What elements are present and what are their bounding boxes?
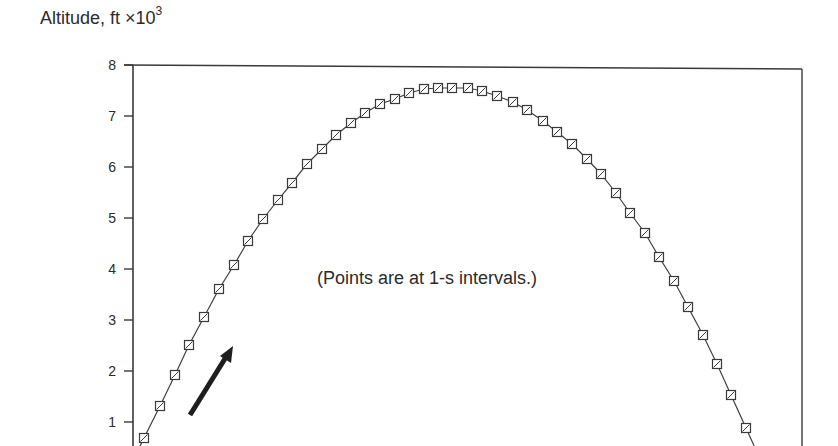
data-point: [612, 189, 621, 198]
data-point: [274, 196, 283, 205]
data-point: [727, 391, 736, 400]
altitude-chart: 12345678 (Points are at 1-s intervals.): [0, 0, 838, 446]
data-point: [244, 237, 253, 246]
data-point: [597, 170, 606, 179]
y-tick-label: 3: [108, 312, 116, 328]
data-point: [539, 117, 548, 126]
y-tick-label: 4: [108, 261, 116, 277]
data-point: [259, 215, 268, 224]
data-point: [434, 84, 443, 93]
y-tick-label: 2: [108, 363, 116, 379]
interval-annotation: (Points are at 1-s intervals.): [317, 268, 537, 288]
data-point: [303, 160, 312, 169]
data-point: [185, 341, 194, 350]
y-axis-ticks: 12345678: [108, 57, 133, 430]
data-point: [230, 261, 239, 270]
y-tick-label: 7: [108, 108, 116, 124]
data-point: [448, 84, 457, 93]
data-point: [464, 84, 473, 93]
data-point: [332, 131, 341, 140]
y-tick-label: 1: [108, 414, 116, 430]
data-point: [478, 87, 487, 96]
data-point: [523, 106, 532, 115]
data-point: [361, 109, 370, 118]
data-point: [568, 140, 577, 149]
data-point: [641, 229, 650, 238]
y-tick-label: 6: [108, 159, 116, 175]
data-point: [583, 155, 592, 164]
data-point: [684, 303, 693, 312]
data-point: [553, 128, 562, 137]
data-point: [493, 92, 502, 101]
data-point: [420, 85, 429, 94]
data-point: [376, 100, 385, 109]
data-point: [742, 424, 751, 433]
data-point-markers: [140, 84, 751, 443]
data-point: [347, 119, 356, 128]
data-point: [670, 277, 679, 286]
data-point: [655, 253, 664, 262]
data-point: [318, 145, 327, 154]
data-point: [713, 360, 722, 369]
data-point: [156, 402, 165, 411]
data-point: [391, 95, 400, 104]
y-tick-label: 8: [108, 57, 116, 73]
data-point: [509, 98, 518, 107]
data-point: [215, 285, 224, 294]
data-point: [200, 313, 209, 322]
data-point: [626, 209, 635, 218]
y-tick-label: 5: [108, 210, 116, 226]
top-border: [124, 65, 802, 69]
plot-frame: [124, 65, 802, 446]
data-point: [699, 331, 708, 340]
data-point: [171, 371, 180, 380]
arrow-icon: [190, 346, 233, 415]
data-point: [288, 179, 297, 188]
data-point: [405, 89, 414, 98]
data-point: [140, 434, 149, 443]
